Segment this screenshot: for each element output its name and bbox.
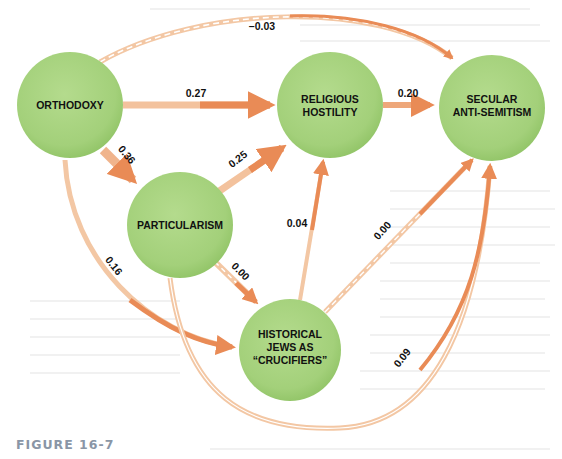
edge-orthodoxy-secular: [100, 16, 452, 62]
coef-historical-religious: 0.04: [287, 217, 308, 229]
node-label: ANTI-SEMITISM: [453, 106, 532, 118]
node-orthodoxy: ORTHODOXY: [17, 52, 123, 158]
node-label: HISTORICAL: [258, 328, 323, 340]
path-diagram: –0.03 0.27 0.20 0.36 0.25 0.16 0.00 0.04…: [0, 0, 562, 459]
edge-particularism-religious: [218, 148, 282, 192]
node-particularism: PARTICULARISM: [127, 172, 233, 278]
node-secular-antisemitism: SECULAR ANTI-SEMITISM: [439, 55, 545, 161]
node-religious-hostility: RELIGIOUS HOSTILITY: [277, 52, 383, 158]
node-label: RELIGIOUS: [301, 93, 359, 105]
coef-historical-secular: 0.00: [371, 219, 394, 242]
coef-orthodoxy-religious: 0.27: [186, 87, 207, 99]
edge-historical-secular: [325, 160, 472, 312]
coef-religious-secular: 0.20: [398, 87, 419, 99]
coef-particularism-religious: 0.25: [226, 148, 250, 170]
coef-orthodoxy-secular: –0.03: [249, 20, 275, 32]
coef-particularism-secular: 0.09: [391, 346, 413, 370]
node-label: HOSTILITY: [303, 106, 358, 118]
edge-historical-religious: [300, 162, 323, 300]
node-label: “CRUCIFIERS”: [253, 354, 328, 366]
node-historical-jews: HISTORICAL JEWS AS “CRUCIFIERS”: [239, 299, 341, 401]
node-label: PARTICULARISM: [137, 219, 223, 231]
node-label: JEWS AS: [267, 341, 314, 353]
node-label: ORTHODOXY: [36, 99, 104, 111]
node-label: SECULAR: [467, 93, 518, 105]
figure-label: FIGURE 16-7: [16, 437, 114, 452]
